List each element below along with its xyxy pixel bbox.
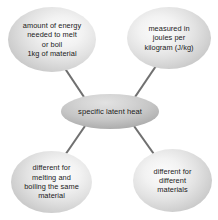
- concept-node-label: amount of energy needed to melt or boil …: [19, 21, 85, 58]
- concept-node-measured-in-joules-per-kilogram[interactable]: measured in joules per kilogram (J/kg): [127, 7, 211, 69]
- connector-center-top-right: [135, 63, 158, 97]
- concept-node-label: specific latent heat: [74, 107, 146, 116]
- concept-node-label: measured in joules per kilogram (J/kg): [140, 24, 197, 52]
- concept-node-different-for-melting-and-boiling[interactable]: different for melting and boiling the sa…: [11, 151, 92, 213]
- concept-node-label: different for different materials: [150, 167, 196, 195]
- concept-map-diagram: amount of energy needed to melt or boil …: [0, 0, 218, 220]
- concept-node-label: different for melting and boiling the sa…: [20, 163, 83, 200]
- concept-node-specific-latent-heat[interactable]: specific latent heat: [61, 94, 159, 129]
- concept-node-amount-of-energy[interactable]: amount of energy needed to melt or boil …: [8, 7, 96, 72]
- concept-node-different-for-different-materials[interactable]: different for different materials: [133, 149, 212, 212]
